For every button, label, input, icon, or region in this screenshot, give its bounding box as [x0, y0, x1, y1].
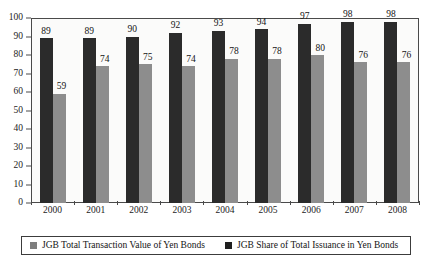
- x-tick-mark-5: [247, 201, 248, 205]
- bar-chart: 0102030405060708090100 89598974907592749…: [0, 0, 431, 269]
- bar-value-label-2001-series1: 74: [95, 55, 115, 65]
- x-tick-label-2005: 2005: [259, 206, 278, 216]
- bar-2004-series0: [212, 31, 225, 203]
- x-tick-label-2007: 2007: [345, 206, 364, 216]
- bars-layer: 895989749075927493789478978098769876: [31, 18, 419, 203]
- bar-value-label-2004-series1: 78: [224, 47, 244, 57]
- y-tick-label-10: 10: [14, 180, 24, 190]
- legend-swatch-icon-0: [30, 242, 37, 249]
- bar-group-2005: 9478: [255, 18, 281, 203]
- bar-value-label-2002-series0: 90: [122, 25, 142, 35]
- bar-value-label-2008-series1: 76: [396, 51, 416, 61]
- bar-2007-series0: [341, 22, 354, 203]
- bar-2000-series0: [40, 38, 53, 203]
- bar-group-2008: 9876: [384, 18, 410, 203]
- bar-group-2006: 9780: [298, 18, 324, 203]
- x-tick-label-2004: 2004: [216, 206, 235, 216]
- bar-2007-series1: [354, 62, 367, 203]
- bar-group-2003: 9274: [169, 18, 195, 203]
- bar-2001-series1: [96, 66, 109, 203]
- bar-value-label-2003-series0: 92: [165, 21, 185, 31]
- bar-group-2007: 9876: [341, 18, 367, 203]
- x-tick-label-2003: 2003: [172, 206, 191, 216]
- legend-label-0: JGB Total Transaction Value of Yen Bonds: [42, 241, 205, 251]
- y-tick-label-70: 70: [14, 69, 24, 79]
- legend-swatch-icon-1: [225, 242, 232, 249]
- legend-item-0[interactable]: JGB Total Transaction Value of Yen Bonds: [30, 237, 205, 254]
- x-tick-label-2008: 2008: [388, 206, 407, 216]
- bar-group-2001: 8974: [83, 18, 109, 203]
- bar-value-label-2003-series1: 74: [181, 55, 201, 65]
- bar-group-2000: 8959: [40, 18, 66, 203]
- y-tick-label-50: 50: [14, 106, 24, 116]
- bar-group-2002: 9075: [126, 18, 152, 203]
- x-tick-mark-end: [419, 201, 420, 205]
- legend: JGB Total Transaction Value of Yen Bonds…: [21, 236, 411, 255]
- x-tick-label-2001: 2001: [86, 206, 105, 216]
- bar-value-label-2000-series1: 59: [52, 82, 72, 92]
- bar-2005-series1: [268, 59, 281, 203]
- y-tick-label-60: 60: [14, 87, 24, 97]
- bar-group-2004: 9378: [212, 18, 238, 203]
- x-axis: 200020012002200320042005200620072008: [31, 206, 419, 222]
- bar-2006-series1: [311, 55, 324, 203]
- x-tick-mark-7: [333, 201, 334, 205]
- y-axis: 0102030405060708090100: [0, 0, 31, 269]
- y-tick-label-0: 0: [18, 198, 23, 208]
- x-tick-mark-8: [376, 201, 377, 205]
- bar-value-label-2005-series0: 94: [252, 18, 272, 28]
- y-tick-label-80: 80: [14, 50, 24, 60]
- bar-value-label-2008-series0: 98: [381, 10, 401, 20]
- x-tick-mark-1: [74, 201, 75, 205]
- x-tick-label-2002: 2002: [129, 206, 148, 216]
- x-tick-mark-6: [290, 201, 291, 205]
- bar-2004-series1: [225, 59, 238, 203]
- y-tick-label-20: 20: [14, 161, 24, 171]
- bar-value-label-2004-series0: 93: [209, 19, 229, 29]
- x-tick-label-2006: 2006: [302, 206, 321, 216]
- y-tick-label-100: 100: [9, 13, 23, 23]
- x-tick-mark-4: [203, 201, 204, 205]
- legend-label-1: JGB Share of Total Issuance in Yen Bonds: [237, 241, 398, 251]
- bar-value-label-2001-series0: 89: [79, 27, 99, 37]
- bar-value-label-2000-series0: 89: [36, 27, 56, 37]
- bar-value-label-2006-series1: 80: [310, 44, 330, 54]
- y-tick-label-90: 90: [14, 32, 24, 42]
- bar-2002-series1: [139, 64, 152, 203]
- bar-value-label-2005-series1: 78: [267, 47, 287, 57]
- bar-2008-series0: [384, 22, 397, 203]
- bar-2008-series1: [397, 62, 410, 203]
- bar-value-label-2007-series1: 76: [353, 51, 373, 61]
- x-tick-mark-3: [160, 201, 161, 205]
- bar-2003-series1: [182, 66, 195, 203]
- bar-value-label-2007-series0: 98: [338, 10, 358, 20]
- x-tick-mark-2: [117, 201, 118, 205]
- y-tick-label-30: 30: [14, 143, 24, 153]
- x-tick-label-2000: 2000: [43, 206, 62, 216]
- x-tick-mark-0: [31, 201, 32, 205]
- legend-item-1[interactable]: JGB Share of Total Issuance in Yen Bonds: [225, 237, 398, 254]
- bar-value-label-2006-series0: 97: [295, 12, 315, 22]
- y-tick-label-40: 40: [14, 124, 24, 134]
- bar-value-label-2002-series1: 75: [138, 53, 158, 63]
- bar-2000-series1: [53, 94, 66, 203]
